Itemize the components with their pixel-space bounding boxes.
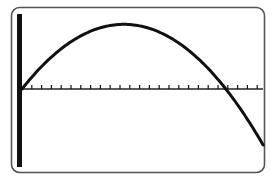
graph-screen (0, 0, 272, 179)
graph-canvas (0, 0, 272, 179)
y-axis (17, 14, 22, 167)
